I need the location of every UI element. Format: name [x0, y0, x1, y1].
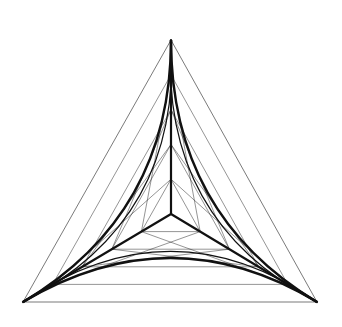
- mesh-line: [171, 144, 229, 249]
- outer-edge: [23, 40, 171, 302]
- mesh-line: [112, 144, 171, 249]
- outer-edge: [171, 40, 317, 302]
- mesh-line: [171, 75, 288, 285]
- mesh-line: [53, 75, 171, 285]
- deltoid-curve: [23, 258, 317, 302]
- deltoid-string-art: [0, 0, 342, 327]
